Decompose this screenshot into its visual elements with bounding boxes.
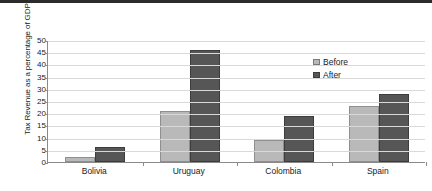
legend-swatch-icon — [313, 59, 320, 65]
gridline — [48, 139, 425, 140]
y-axis-tick-mark — [45, 53, 48, 54]
y-axis-tick-label: 45 — [24, 49, 46, 57]
bar-uruguay-before — [160, 111, 190, 162]
bar-bolivia-after — [95, 147, 125, 162]
x-axis-label-spain: Spain — [331, 166, 426, 176]
y-axis-tick-label: 20 — [24, 110, 46, 118]
y-axis-tick-mark — [45, 41, 48, 42]
bar-uruguay-after — [190, 50, 220, 162]
gridline — [48, 41, 425, 42]
y-axis-tick-mark — [45, 65, 48, 66]
x-axis-label-colombia: Colombia — [236, 166, 331, 176]
gridline — [48, 53, 425, 54]
y-axis-tick-label: 30 — [24, 86, 46, 94]
bar-chart: Tax Revenue as a percentage of GDP 05101… — [0, 0, 432, 191]
y-axis-tick-label: 25 — [24, 98, 46, 106]
y-axis-tick-mark — [45, 139, 48, 140]
y-axis-tick-mark — [45, 78, 48, 79]
gridline — [48, 126, 425, 127]
y-axis-tick-mark — [45, 151, 48, 152]
legend-label: After — [323, 71, 341, 80]
x-axis-tick-mark — [426, 162, 427, 166]
y-axis-tick-labels: 05101520253035404550 — [24, 41, 46, 163]
y-axis-tick-label: 15 — [24, 122, 46, 130]
chart-legend: BeforeAfter — [313, 56, 383, 82]
gridline — [48, 151, 425, 152]
y-axis-tick-label: 10 — [24, 135, 46, 143]
y-axis-tick-mark — [45, 114, 48, 115]
y-axis-tick-label: 0 — [24, 159, 46, 167]
x-axis-label-uruguay: Uruguay — [142, 166, 237, 176]
legend-swatch-icon — [313, 72, 320, 78]
gridline — [48, 90, 425, 91]
gridline — [48, 102, 425, 103]
y-axis-tick-label: 35 — [24, 74, 46, 82]
y-axis-tick-mark — [45, 102, 48, 103]
legend-label: Before — [323, 58, 348, 67]
y-axis-tick-mark — [45, 90, 48, 91]
bar-bolivia-before — [65, 157, 95, 162]
x-axis-category-labels: BoliviaUruguayColombiaSpain — [47, 166, 425, 182]
gridline — [48, 114, 425, 115]
y-axis-tick-label: 40 — [24, 61, 46, 69]
x-axis-label-bolivia: Bolivia — [47, 166, 142, 176]
y-axis-tick-label: 5 — [24, 147, 46, 155]
y-axis-tick-mark — [45, 163, 48, 164]
legend-item-after[interactable]: After — [313, 69, 383, 81]
legend-item-before[interactable]: Before — [313, 56, 383, 68]
y-axis-tick-mark — [45, 126, 48, 127]
y-axis-tick-label: 50 — [24, 37, 46, 45]
